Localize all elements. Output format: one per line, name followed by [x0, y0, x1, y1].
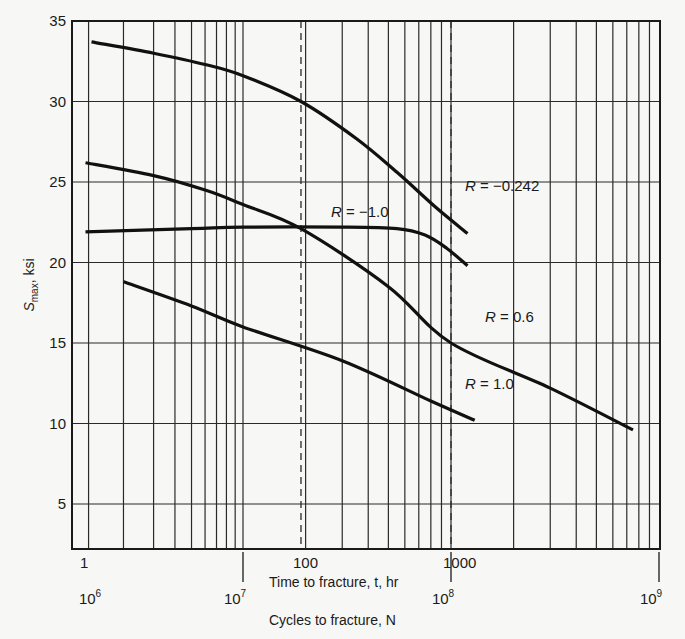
time-tick-label: 1000	[443, 554, 476, 571]
y-tick-label: 35	[49, 12, 66, 29]
time-axis-tick-labels: 11001000	[80, 554, 476, 571]
plot-frame	[72, 21, 660, 549]
cycles-axis-title: Cycles to fracture, N	[269, 612, 396, 628]
curve-r-0	[92, 42, 468, 234]
horizontal-gridlines	[72, 102, 660, 505]
curve-label: R = 1.0	[465, 375, 514, 392]
curve-labels: R = −0.242R = −1.0R = 0.6R = 1.0	[331, 177, 539, 392]
y-tick-label: 15	[49, 334, 66, 351]
y-tick-label: 20	[49, 254, 66, 271]
curve-r-1	[86, 227, 468, 266]
curve-label: R = −1.0	[331, 203, 389, 220]
curve-label: R = −0.242	[465, 177, 539, 194]
sn-fatigue-chart: R = −0.242R = −1.0R = 0.6R = 1.0 5101520…	[0, 0, 685, 639]
time-axis-title: Time to fracture, t, hr	[269, 574, 399, 590]
curve-r-3	[124, 282, 475, 421]
y-axis-title-unit: , ksi	[21, 258, 37, 283]
vertical-gridlines	[89, 21, 650, 549]
cycles-tick-label: 107	[224, 588, 247, 607]
curve-label: R = 0.6	[485, 308, 534, 325]
time-tick-label: 1	[80, 554, 88, 571]
y-axis-tick-labels: 5101520253035	[49, 12, 66, 512]
y-tick-label: 5	[58, 495, 66, 512]
time-tick-label: 100	[293, 554, 318, 571]
y-tick-label: 25	[49, 173, 66, 190]
curves	[86, 42, 634, 430]
svg-text:Smax, ksi: Smax, ksi	[21, 258, 40, 311]
cycles-tick-label: 108	[432, 588, 455, 607]
cycles-tick-label: 106	[79, 588, 102, 607]
y-axis-title: Smax, ksi	[21, 258, 40, 311]
time-reference-dashed-lines	[301, 21, 451, 549]
y-tick-label: 30	[49, 93, 66, 110]
y-tick-label: 10	[49, 415, 66, 432]
cycles-tick-label: 109	[640, 588, 663, 607]
y-axis-title-sub: max	[29, 283, 40, 302]
